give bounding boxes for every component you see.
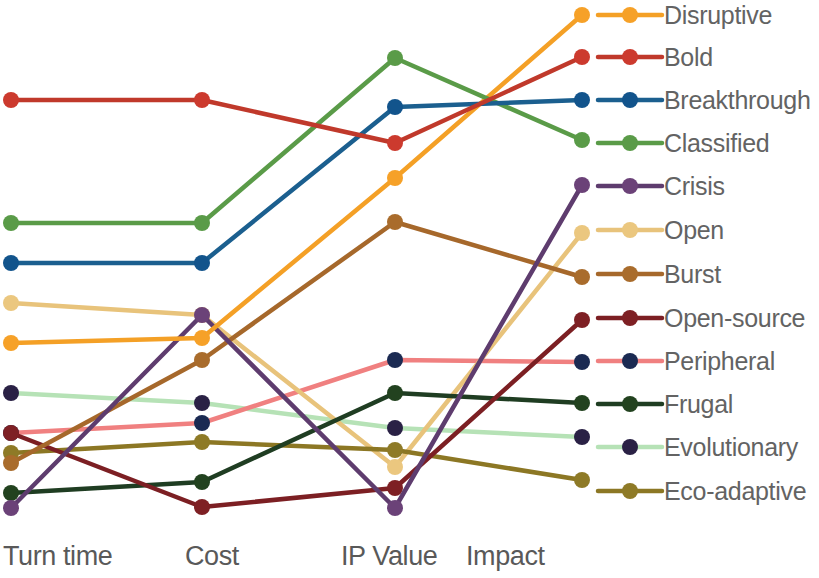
data-point-marker[interactable] <box>387 442 403 458</box>
data-point-marker[interactable] <box>3 295 19 311</box>
data-point-marker[interactable] <box>3 255 19 271</box>
legend-label-disruptive[interactable]: Disruptive <box>664 1 772 30</box>
data-point-marker[interactable] <box>3 500 19 516</box>
data-point-marker[interactable] <box>574 472 590 488</box>
data-point-marker[interactable] <box>387 385 403 401</box>
series-line[interactable] <box>11 58 582 223</box>
legend-marker <box>622 135 638 151</box>
data-point-marker[interactable] <box>574 177 590 193</box>
legend-label-open[interactable]: Open <box>664 216 724 245</box>
data-point-marker[interactable] <box>194 352 210 368</box>
legend-label-peripheral[interactable]: Peripheral <box>664 347 775 376</box>
legend-swatch-eco-adaptive[interactable] <box>598 483 662 499</box>
series-bold[interactable] <box>3 49 590 151</box>
data-point-marker[interactable] <box>3 455 19 471</box>
data-point-marker[interactable] <box>574 49 590 65</box>
series-frugal[interactable] <box>3 385 590 501</box>
data-point-marker[interactable] <box>194 395 210 411</box>
legend-marker <box>622 396 638 412</box>
legend-swatch-peripheral[interactable] <box>598 353 662 369</box>
data-point-marker[interactable] <box>194 434 210 450</box>
data-point-marker[interactable] <box>574 354 590 370</box>
legend-label-breakthrough[interactable]: Breakthrough <box>664 86 811 115</box>
data-point-marker[interactable] <box>194 330 210 346</box>
data-point-marker[interactable] <box>387 352 403 368</box>
legend-marker <box>622 483 638 499</box>
legend-marker <box>622 7 638 23</box>
legend-swatch-bold[interactable] <box>598 49 662 65</box>
data-point-marker[interactable] <box>574 225 590 241</box>
legend-label-bold[interactable]: Bold <box>664 43 713 72</box>
data-point-marker[interactable] <box>574 312 590 328</box>
data-point-marker[interactable] <box>194 415 210 431</box>
data-point-marker[interactable] <box>387 480 403 496</box>
data-point-marker[interactable] <box>387 420 403 436</box>
legend-marker <box>622 439 638 455</box>
data-point-marker[interactable] <box>3 425 19 441</box>
legend-label-crisis[interactable]: Crisis <box>664 172 725 201</box>
data-point-marker[interactable] <box>387 170 403 186</box>
series-eco-adaptive[interactable] <box>3 434 590 488</box>
data-point-marker[interactable] <box>3 215 19 231</box>
legend-label-burst[interactable]: Burst <box>664 260 721 289</box>
data-point-marker[interactable] <box>3 485 19 501</box>
legend-marker <box>622 178 638 194</box>
data-point-marker[interactable] <box>387 214 403 230</box>
series-disruptive[interactable] <box>3 7 590 351</box>
legend-label-evolutionary[interactable]: Evolutionary <box>664 433 798 462</box>
legend-marker <box>622 353 638 369</box>
axis-label-impact: Impact <box>466 541 545 572</box>
legend-label-open-source[interactable]: Open-source <box>664 304 805 333</box>
data-point-marker[interactable] <box>194 474 210 490</box>
legend-swatch-disruptive[interactable] <box>598 7 662 23</box>
data-point-marker[interactable] <box>574 269 590 285</box>
legend-marker <box>622 49 638 65</box>
data-point-marker[interactable] <box>574 92 590 108</box>
axis-label-turn-time: Turn time <box>3 541 112 572</box>
data-point-marker[interactable] <box>194 255 210 271</box>
data-point-marker[interactable] <box>574 395 590 411</box>
data-point-marker[interactable] <box>3 385 19 401</box>
data-point-marker[interactable] <box>387 99 403 115</box>
data-point-marker[interactable] <box>194 499 210 515</box>
legend-swatch-crisis[interactable] <box>598 178 662 194</box>
legend-swatch-classified[interactable] <box>598 135 662 151</box>
data-point-marker[interactable] <box>387 459 403 475</box>
legend-swatch-burst[interactable] <box>598 266 662 282</box>
series-line[interactable] <box>11 100 582 263</box>
legend-marker <box>622 222 638 238</box>
legend-marker <box>622 310 638 326</box>
series-line[interactable] <box>11 442 582 480</box>
legend-marker <box>622 92 638 108</box>
legend-swatch-open[interactable] <box>598 222 662 238</box>
series-line[interactable] <box>11 185 582 508</box>
legend-swatch-evolutionary[interactable] <box>598 439 662 455</box>
series-layer <box>3 7 590 516</box>
data-point-marker[interactable] <box>194 215 210 231</box>
legend-label-frugal[interactable]: Frugal <box>664 390 733 419</box>
data-point-marker[interactable] <box>387 135 403 151</box>
axis-label-cost: Cost <box>185 541 239 572</box>
legend-label-eco-adaptive[interactable]: Eco-adaptive <box>664 477 806 506</box>
legend-swatch-frugal[interactable] <box>598 396 662 412</box>
data-point-marker[interactable] <box>3 92 19 108</box>
data-point-marker[interactable] <box>194 92 210 108</box>
data-point-marker[interactable] <box>387 500 403 516</box>
legend-marker <box>622 266 638 282</box>
legend-swatch-breakthrough[interactable] <box>598 92 662 108</box>
legend-label-classified[interactable]: Classified <box>664 129 769 158</box>
legend-swatch-open-source[interactable] <box>598 310 662 326</box>
data-point-marker[interactable] <box>387 50 403 66</box>
data-point-marker[interactable] <box>574 7 590 23</box>
data-point-marker[interactable] <box>574 132 590 148</box>
data-point-marker[interactable] <box>194 307 210 323</box>
data-point-marker[interactable] <box>3 335 19 351</box>
axis-label-ip-value: IP Value <box>341 541 437 572</box>
series-classified[interactable] <box>3 50 590 231</box>
data-point-marker[interactable] <box>574 429 590 445</box>
parallel-coordinates-chart: Turn timeCostIP ValueImpact DisruptiveBo… <box>0 0 819 578</box>
legend-marks-layer <box>598 7 662 499</box>
